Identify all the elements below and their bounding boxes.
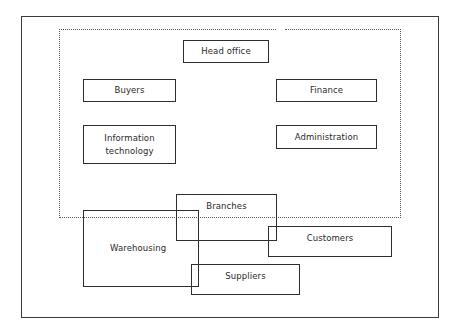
- boundary-top-right: [285, 29, 401, 30]
- warehousing-box: Warehousing: [83, 210, 199, 287]
- customers-label: Customers: [307, 232, 354, 245]
- head-office-label: Head office: [201, 45, 250, 58]
- head-office-box: Head office: [183, 40, 269, 63]
- warehousing-label: Warehousing: [110, 242, 166, 255]
- administration-box: Administration: [276, 125, 377, 149]
- boundary-left: [59, 29, 60, 218]
- administration-label: Administration: [295, 131, 359, 144]
- suppliers-label: Suppliers: [225, 270, 265, 283]
- buyers-box: Buyers: [83, 79, 176, 102]
- customers-box: Customers: [268, 226, 392, 257]
- information-technology-box: Information technology: [83, 125, 176, 164]
- suppliers-box: Suppliers: [191, 264, 300, 295]
- finance-label: Finance: [310, 84, 343, 97]
- boundary-top-left: [59, 29, 276, 30]
- information-technology-label: Information technology: [104, 132, 154, 158]
- buyers-label: Buyers: [114, 84, 144, 97]
- boundary-right: [400, 29, 401, 218]
- branches-label: Branches: [206, 200, 246, 213]
- finance-box: Finance: [276, 79, 377, 102]
